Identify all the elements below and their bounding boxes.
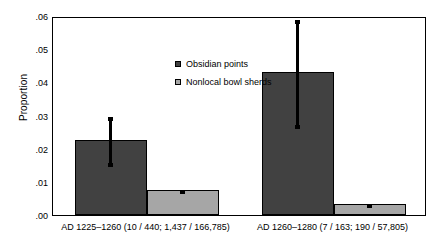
legend-item-label: Obsidian points	[186, 59, 248, 69]
y-tick-label: .04	[18, 78, 48, 88]
legend-item: Obsidian points	[175, 55, 272, 73]
x-axis-category-labels: AD 1225–1260 (10 / 440; 1,437 / 166,785)…	[52, 222, 426, 242]
y-tick-label: .02	[18, 145, 48, 155]
error-bar-cap	[295, 125, 300, 129]
legend-swatch-icon	[175, 61, 181, 67]
y-tick-label: .03	[18, 112, 48, 122]
legend-item-label: Nonlocal bowl sherds	[186, 77, 272, 87]
error-bar-cap	[108, 117, 113, 121]
y-axis-tick-labels: .00.01.02.03.04.05.06	[18, 0, 48, 248]
error-bar-cap	[108, 163, 113, 167]
chart-figure: Proportion .00.01.02.03.04.05.06 Obsidia…	[0, 0, 439, 248]
y-tick-label: .06	[18, 12, 48, 22]
error-bar	[296, 20, 299, 129]
y-tick-label: .01	[18, 178, 48, 188]
x-axis-category-label: AD 1225–1260 (10 / 440; 1,437 / 166,785)	[61, 222, 230, 232]
error-bar	[109, 117, 112, 167]
plot-area: Obsidian pointsNonlocal bowl sherds	[52, 17, 426, 216]
legend-item: Nonlocal bowl sherds	[175, 73, 272, 91]
plot-inner	[53, 18, 425, 215]
legend-swatch-icon	[175, 79, 181, 85]
x-axis-category-label: AD 1260–1280 (7 / 163; 190 / 57,805)	[257, 222, 408, 232]
error-bar	[367, 204, 372, 208]
error-bar-cap	[295, 20, 300, 24]
y-tick-label: .00	[18, 211, 48, 221]
chart-legend: Obsidian pointsNonlocal bowl sherds	[175, 55, 272, 91]
error-bar	[180, 190, 185, 194]
y-tick-label: .05	[18, 45, 48, 55]
